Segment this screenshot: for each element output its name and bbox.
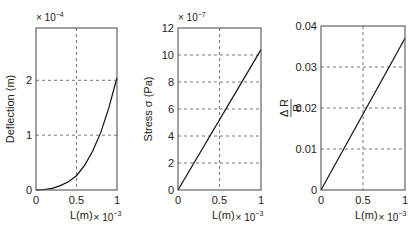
y-tick: 1 <box>26 129 32 141</box>
y-label-numerator: Δ R <box>278 99 290 117</box>
x-tick: 0 <box>175 194 181 206</box>
y-multiplier: × 10−7 <box>178 11 206 23</box>
y-tick: 0.01 <box>296 143 317 155</box>
y-tick: 0 <box>168 184 174 196</box>
x-tick: 1 <box>114 194 120 206</box>
y-tick: 6 <box>168 103 174 115</box>
y-tick: 12 <box>162 22 174 34</box>
y-axis-label: Deflection (m) <box>4 75 16 143</box>
y-tick: 0 <box>26 184 32 196</box>
x-tick: 0 <box>33 194 39 206</box>
x-tick: 0.5 <box>69 194 84 206</box>
x-tick: 0 <box>318 194 324 206</box>
y-tick: 2 <box>26 74 32 86</box>
resistance-line <box>321 38 405 190</box>
y-tick: 2 <box>168 157 174 169</box>
x-tick: 1 <box>258 194 264 206</box>
y-tick: 0.03 <box>296 61 317 73</box>
plot-deflection: 0 1 2 0 0.5 1 × 10−4 L(m)× 10−3 Deflecti… <box>4 11 121 223</box>
y-tick: 4 <box>168 130 174 142</box>
y-multiplier: × 10−4 <box>36 11 64 23</box>
x-tick: 0.5 <box>212 194 227 206</box>
x-axis-label: L(m)× 10−3 <box>70 209 121 223</box>
x-axis-label: L(m)× 10−3 <box>355 209 406 223</box>
x-tick: 1 <box>402 194 408 206</box>
y-tick: 0.04 <box>296 20 317 32</box>
x-tick: 0.5 <box>355 194 370 206</box>
y-label-denominator: R <box>291 104 303 112</box>
x-axis-label: L(m)× 10−3 <box>212 209 263 223</box>
y-tick: 10 <box>162 49 174 61</box>
plot-resistance-change: 0 0.01 0.02 0.03 0.04 0 0.5 1 L(m)× 10−3… <box>278 20 408 223</box>
y-tick: 0 <box>311 184 317 196</box>
y-axis-label: Stress σ (Pa) <box>142 77 154 142</box>
y-tick: 8 <box>168 76 174 88</box>
figure: 0 1 2 0 0.5 1 × 10−4 L(m)× 10−3 Deflecti… <box>0 0 420 238</box>
plot-stress: 0 2 4 6 8 10 12 0 0.5 1 × 10−7 L(m)× 10−… <box>142 11 264 223</box>
